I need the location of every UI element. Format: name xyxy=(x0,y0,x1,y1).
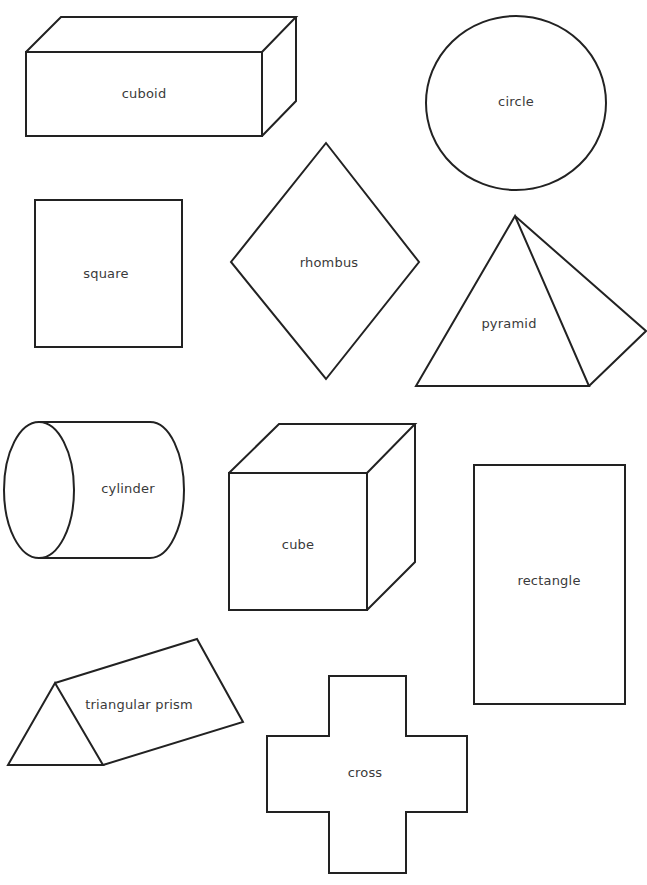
cube-label: cube xyxy=(282,537,314,552)
cylinder-shape xyxy=(4,422,184,558)
rectangle-label: rectangle xyxy=(517,573,580,588)
square-label: square xyxy=(83,266,129,281)
circle-label: circle xyxy=(498,94,534,109)
rhombus-label: rhombus xyxy=(300,255,359,270)
triangular-prism-label: triangular prism xyxy=(85,697,193,712)
cube-shape xyxy=(229,424,415,610)
shapes-worksheet xyxy=(0,0,647,885)
cylinder-label: cylinder xyxy=(101,481,155,496)
pyramid-label: pyramid xyxy=(481,316,536,331)
pyramid-shape xyxy=(416,216,646,386)
cuboid-shape xyxy=(26,17,296,136)
cross-label: cross xyxy=(348,765,383,780)
cuboid-label: cuboid xyxy=(122,86,167,101)
